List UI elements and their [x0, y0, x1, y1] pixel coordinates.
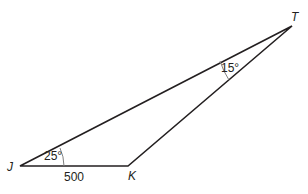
triangle-diagram — [0, 0, 308, 194]
vertex-label-j: J — [7, 161, 13, 173]
angle-label-j: 25° — [44, 150, 62, 162]
triangle-jkt — [20, 26, 292, 166]
vertex-label-t: T — [291, 11, 298, 23]
side-label-jk: 500 — [64, 171, 84, 183]
angle-label-t: 15° — [221, 62, 239, 74]
vertex-label-k: K — [128, 170, 136, 182]
